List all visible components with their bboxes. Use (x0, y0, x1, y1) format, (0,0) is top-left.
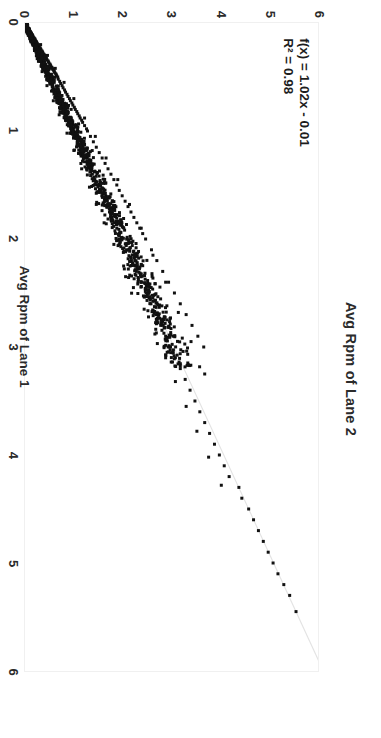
data-point (76, 144, 79, 147)
rotated-figure-wrapper: Avg Rpm of Lane 2 0123456 0123456 Avg Rp… (0, 0, 381, 738)
data-point (162, 332, 165, 335)
data-point (113, 229, 116, 232)
data-point (173, 325, 176, 328)
data-point (83, 137, 86, 140)
data-point (140, 281, 143, 284)
data-point (118, 214, 121, 217)
data-point (147, 288, 150, 291)
data-point (160, 319, 163, 322)
data-point (43, 67, 46, 70)
data-point (151, 288, 154, 291)
data-point (127, 242, 130, 245)
data-point (123, 250, 126, 253)
data-point (117, 233, 120, 236)
data-point (207, 456, 210, 459)
data-point (99, 179, 102, 182)
data-point (184, 378, 187, 381)
data-point (81, 149, 84, 152)
data-point (39, 60, 42, 63)
data-point (126, 263, 129, 266)
data-point (95, 146, 98, 149)
data-point (56, 86, 59, 89)
data-point (70, 108, 73, 111)
x-axis-title-holder: Avg Rpm of Lane 1 (17, 22, 32, 738)
y-axis-tick-labels: 0123456 (24, 0, 319, 22)
data-point (56, 101, 59, 104)
data-point (164, 306, 167, 309)
data-point (188, 364, 191, 367)
data-point (153, 299, 156, 302)
data-point (288, 594, 291, 597)
data-point (183, 343, 186, 346)
data-point (58, 110, 61, 113)
data-point (102, 203, 105, 206)
data-point (151, 254, 154, 257)
data-point (136, 264, 139, 267)
data-point (132, 286, 135, 289)
data-point (213, 443, 216, 446)
data-point (71, 133, 74, 136)
y-tick-2: 2 (115, 11, 130, 18)
data-point (82, 157, 85, 160)
data-point (220, 484, 223, 487)
data-point (164, 353, 167, 356)
data-point (73, 149, 76, 152)
data-point (112, 178, 115, 181)
data-point (101, 157, 104, 160)
data-point (72, 97, 75, 100)
data-point (156, 311, 159, 314)
data-point (154, 292, 157, 295)
data-point (179, 352, 182, 355)
data-point (38, 51, 41, 54)
data-point (148, 302, 151, 305)
data-point (75, 137, 78, 140)
data-point (123, 267, 126, 270)
data-point (52, 90, 55, 93)
data-point (83, 117, 86, 120)
data-point (173, 364, 176, 367)
data-point (127, 249, 130, 252)
chart-title: Avg Rpm of Lane 2 (343, 0, 359, 738)
data-point (32, 40, 35, 43)
data-point (53, 78, 56, 81)
data-point (122, 265, 125, 268)
data-point (69, 121, 72, 124)
data-point (136, 267, 139, 270)
data-point (39, 43, 42, 46)
data-point (152, 314, 155, 317)
data-point (150, 248, 153, 251)
data-point (87, 154, 90, 157)
data-point (102, 178, 105, 181)
data-point (179, 367, 182, 370)
data-point (137, 278, 140, 281)
data-point (115, 184, 118, 187)
data-point (95, 175, 98, 178)
data-point (195, 430, 198, 433)
data-point (173, 292, 176, 295)
data-point (114, 232, 117, 235)
data-point (94, 135, 97, 138)
data-point (119, 245, 122, 248)
data-point (198, 410, 201, 413)
data-point (90, 167, 93, 170)
data-point (81, 121, 84, 124)
data-point (185, 313, 188, 316)
data-point (179, 348, 182, 351)
r-squared-value: R² = 0.98 (280, 38, 296, 146)
data-point (47, 79, 50, 82)
data-point (144, 238, 147, 241)
data-point (177, 311, 180, 314)
data-point (105, 157, 108, 160)
data-point (124, 200, 127, 203)
data-point (86, 173, 89, 176)
data-point (159, 297, 162, 300)
data-point (96, 171, 99, 174)
data-point (156, 342, 159, 345)
data-point (92, 179, 95, 182)
data-point (184, 365, 187, 368)
data-point (130, 274, 133, 277)
data-point (142, 259, 145, 262)
data-point (74, 133, 77, 136)
data-point (122, 226, 125, 229)
data-point (136, 292, 139, 295)
